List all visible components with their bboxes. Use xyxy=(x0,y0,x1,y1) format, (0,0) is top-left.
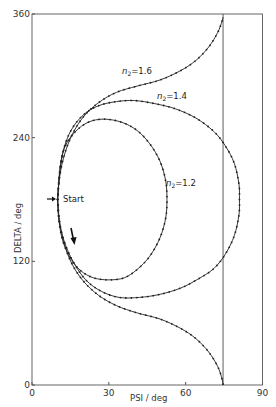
curve-n2-1-6-lower-marker xyxy=(222,383,224,385)
curve-n2-1-4-marker xyxy=(235,231,237,233)
curve-n2-1-4-marker xyxy=(141,100,143,102)
curve-n2-1-6-upper-marker xyxy=(170,74,172,76)
curve-n2-1-6-lower-marker xyxy=(109,301,111,303)
curve-n2-1-6-lower-marker xyxy=(218,367,220,369)
curve-n2-1-2-marker xyxy=(140,266,142,268)
curve-n2-1-4-marker xyxy=(237,177,239,179)
curve-n2-1-6-lower-marker xyxy=(198,341,200,343)
curve-n2-1-2-marker xyxy=(89,276,91,278)
curve-n2-1-4-marker xyxy=(216,265,218,267)
curve-n2-1-4-marker xyxy=(237,220,239,222)
curve-n2-1-2-marker xyxy=(150,253,152,255)
curve-n2-1-4-marker xyxy=(223,256,225,258)
curve-n2-1-4-marker xyxy=(212,268,214,270)
curve-n2-1-4-marker xyxy=(103,103,105,105)
curve-n2-1-6-upper-marker xyxy=(76,125,78,127)
curve-n2-1-4-marker xyxy=(73,125,75,127)
curve-n2-1-6-lower-marker xyxy=(161,319,163,321)
y-tick-label: 120 xyxy=(13,256,30,266)
curve-n2-1-2-marker xyxy=(150,144,152,146)
y-axis-label: DELTA / deg xyxy=(13,203,23,253)
curve-n2-1-6-lower-marker xyxy=(190,334,192,336)
curve-n2-1-6-lower-marker xyxy=(155,317,157,319)
curve-n2-1-4-marker xyxy=(88,110,90,112)
curve-n2-1-2-marker xyxy=(83,124,85,126)
y-tick-label: 360 xyxy=(13,9,30,19)
curve-n2-1-4-marker xyxy=(70,130,72,132)
curve-n2-1-6-upper-marker xyxy=(198,57,200,59)
curve-n2-1-4-marker xyxy=(233,236,235,238)
curve-n2-1-2-marker xyxy=(116,279,118,281)
curve-n2-1-4-marker xyxy=(109,294,111,296)
curve-n2-1-6-upper-marker xyxy=(206,49,208,51)
curve-n2-1-6-lower-marker xyxy=(114,304,116,306)
curve-n2-1-4-marker xyxy=(168,291,170,293)
curve-n2-1-4-marker xyxy=(62,151,64,153)
curve-n2-1-6-upper-marker xyxy=(65,150,67,152)
curve-n2-1-6-lower-marker xyxy=(69,258,71,260)
curve-n2-1-6-lower-marker xyxy=(129,310,131,312)
curve-n2-1-6-lower-marker xyxy=(58,215,60,217)
x-tick-label: 30 xyxy=(103,388,115,398)
curve-n2-1-4-marker xyxy=(125,297,127,299)
curve-n2-1-4-marker xyxy=(174,289,176,291)
curve-n2-1-4-marker xyxy=(238,182,240,184)
curve-n2-1-2-marker xyxy=(158,158,160,160)
curve-n2-1-4-marker xyxy=(99,290,101,292)
curve-n2-1-4-marker xyxy=(198,278,200,280)
curve-n2-1-6-upper-marker xyxy=(82,116,84,118)
curve-n2-1-6-lower-marker xyxy=(221,378,223,380)
curve-n2-1-2-marker xyxy=(135,128,137,130)
curve-n2-1-4-marker xyxy=(226,251,228,253)
curve-n2-1-4-marker xyxy=(219,137,221,139)
curve-n2-1-6-lower xyxy=(58,200,223,386)
curve-n2-1-2-marker xyxy=(166,190,168,192)
curve-n2-1-4-marker xyxy=(194,116,196,118)
curve-n2-1-6-lower-marker xyxy=(220,373,222,375)
curve-n2-1-2-marker xyxy=(165,218,167,220)
curve-n2-1-4-marker xyxy=(173,108,175,110)
curve-n2-1-2-marker xyxy=(166,201,168,203)
direction-arrow-icon xyxy=(71,228,77,245)
curve-n2-1-2-marker xyxy=(143,136,145,138)
curve-n2-1-2-marker xyxy=(80,270,82,272)
curve-n2-1-4-marker xyxy=(239,204,241,206)
curve-n2-1-4-marker xyxy=(184,111,186,113)
x-tick-label: 90 xyxy=(257,388,269,398)
curve-n2-1-6-upper-marker xyxy=(194,60,196,62)
curve-n2-1-6-upper-marker xyxy=(103,98,105,100)
curve-n2-1-6-upper-marker xyxy=(144,83,146,85)
label-n2-1.2: n2=1.2 xyxy=(166,178,196,189)
curve-n2-1-6-upper-marker xyxy=(217,30,219,32)
curve-n2-1-6-upper-marker xyxy=(185,67,187,69)
curve-n2-1-4-marker xyxy=(238,188,240,190)
curve-n2-1-4-marker xyxy=(67,135,69,137)
curve-n2-1-4-marker xyxy=(231,156,233,158)
curve-n2-1-4-marker xyxy=(60,161,62,163)
curve-n2-1-2-marker xyxy=(162,228,164,230)
curve-n2-1-6-upper-marker xyxy=(221,20,223,22)
label-n2-1.4: n2=1.4 xyxy=(157,91,187,102)
curve-n2-1-4-marker xyxy=(64,145,66,147)
curve-n2-1-2-marker xyxy=(160,163,162,165)
curve-n2-1-6-lower-marker xyxy=(212,358,214,360)
curve-n2-1-4-marker xyxy=(61,156,63,158)
curve-n2-1-2-marker xyxy=(111,279,113,281)
curve-n2-1-2-marker xyxy=(147,258,149,260)
curve-n2-1-4-marker xyxy=(73,262,75,264)
curve-n2-1-4-marker xyxy=(104,292,106,294)
curve-n2-1-2-marker xyxy=(115,120,117,122)
curve-n2-1-2-marker xyxy=(131,273,133,275)
curve-n2-1-4-marker xyxy=(152,102,154,104)
curve-n2-1-4-marker xyxy=(157,103,159,105)
curve-n2-1-6-upper-marker xyxy=(123,89,125,91)
curve-n2-1-6-upper-marker xyxy=(180,70,182,72)
x-tick-label: 0 xyxy=(29,388,35,398)
curve-n2-1-4-marker xyxy=(228,151,230,153)
curve-n2-1-6-lower-marker xyxy=(124,308,126,310)
curve-n2-1-6-lower-marker xyxy=(206,349,208,351)
curve-n2-1-2-marker xyxy=(153,149,155,151)
curve-n2-1-6-lower-marker xyxy=(181,328,183,330)
curve-n2-1-2-marker xyxy=(98,118,100,120)
curve-n2-1-4-marker xyxy=(238,215,240,217)
